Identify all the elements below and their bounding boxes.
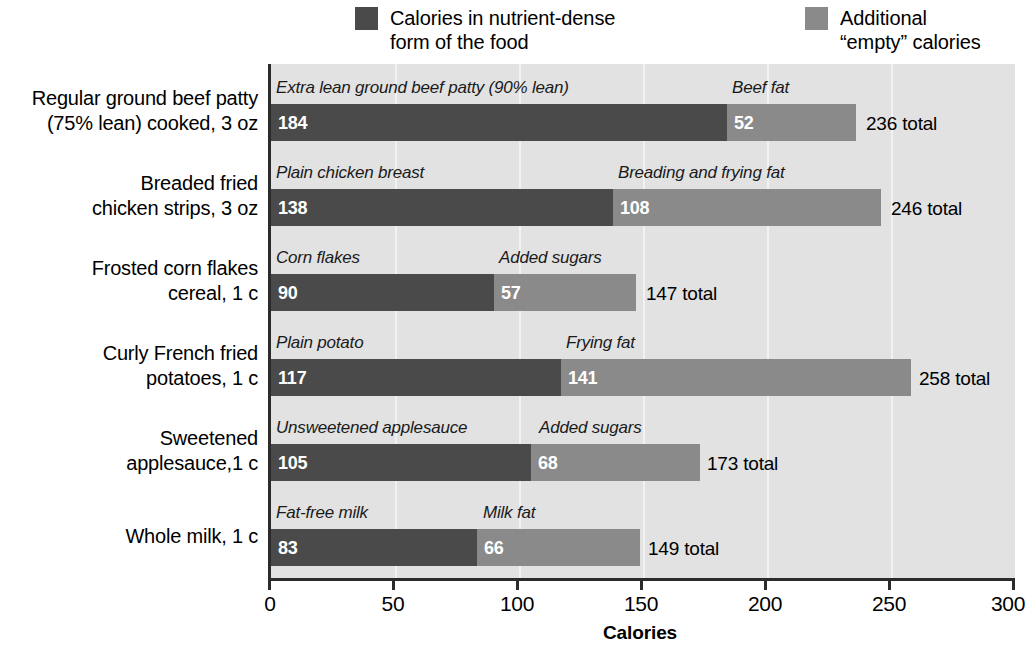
bar-value-empty-calories-4: 68: [538, 454, 558, 472]
x-axis-tick-0: [268, 578, 271, 590]
bar-value-nutrient-dense-3: 117: [278, 369, 306, 387]
legend-label-empty-calories: Additional “empty” calories: [840, 6, 981, 54]
bar-segment-nutrient-dense-2[interactable]: 90: [271, 274, 494, 311]
segment-caption-extra-4: Added sugars: [539, 418, 642, 438]
total-label-1: 246 total: [891, 199, 962, 218]
legend-label-nutrient-dense: Calories in nutrient-dense form of the f…: [390, 6, 615, 54]
segment-caption-base-0: Extra lean ground beef patty (90% lean): [276, 78, 569, 98]
bar-value-empty-calories-5: 66: [484, 539, 504, 557]
x-axis-tick-50: [392, 578, 395, 590]
bar-value-empty-calories-3: 141: [568, 369, 597, 387]
category-label-4: Sweetened applesauce,1 c: [0, 426, 258, 476]
bar-value-nutrient-dense-1: 138: [278, 199, 307, 217]
bar-row-2: Corn flakes Added sugars 90 57 147 total: [271, 234, 1015, 319]
x-axis-tick-label-200: 200: [748, 592, 782, 616]
x-axis-tick-200: [764, 578, 767, 590]
total-label-4: 173 total: [707, 454, 778, 473]
segment-caption-base-2: Corn flakes: [276, 248, 360, 268]
bar-segment-empty-calories-1[interactable]: 108: [613, 189, 881, 226]
bar-segment-empty-calories-5[interactable]: 66: [477, 529, 640, 566]
stacked-bar-3[interactable]: 117 141: [271, 359, 911, 396]
x-axis-tick-label-0: 0: [264, 592, 275, 616]
segment-caption-extra-5: Milk fat: [483, 503, 535, 523]
segment-caption-extra-2: Added sugars: [499, 248, 602, 268]
segment-caption-base-3: Plain potato: [276, 333, 363, 353]
legend-swatch-nutrient-dense: [355, 7, 378, 30]
x-axis-title: Calories: [268, 622, 1012, 644]
chart-legend: Calories in nutrient-dense form of the f…: [0, 0, 1034, 60]
bar-segment-empty-calories-0[interactable]: 52: [727, 104, 856, 141]
segment-caption-base-5: Fat-free milk: [276, 503, 368, 523]
bar-value-nutrient-dense-2: 90: [278, 284, 298, 302]
total-label-2: 147 total: [646, 284, 717, 303]
segment-caption-base-4: Unsweetened applesauce: [276, 418, 467, 438]
total-label-3: 258 total: [919, 369, 990, 388]
category-axis-labels: Regular ground beef patty (75% lean) coo…: [0, 64, 258, 578]
legend-entry-empty-calories: Additional “empty” calories: [805, 6, 981, 54]
x-axis-tick-150: [640, 578, 643, 590]
segment-caption-extra-3: Frying fat: [566, 333, 635, 353]
bar-segment-nutrient-dense-3[interactable]: 117: [271, 359, 561, 396]
category-label-3: Curly French fried potatoes, 1 c: [0, 341, 258, 391]
bar-row-4: Unsweetened applesauce Added sugars 105 …: [271, 404, 1015, 489]
stacked-bar-0[interactable]: 184 52: [271, 104, 856, 141]
x-axis-tick-label-300: 300: [991, 592, 1025, 616]
x-axis-tick-label-50: 50: [382, 592, 405, 616]
bar-segment-nutrient-dense-1[interactable]: 138: [271, 189, 613, 226]
segment-caption-extra-1: Breading and frying fat: [618, 163, 784, 183]
stacked-bar-5[interactable]: 83 66: [271, 529, 640, 566]
bar-value-nutrient-dense-4: 105: [278, 454, 307, 472]
stacked-bar-2[interactable]: 90 57: [271, 274, 636, 311]
bar-segment-nutrient-dense-5[interactable]: 83: [271, 529, 477, 566]
total-label-0: 236 total: [866, 114, 937, 133]
segment-caption-extra-0: Beef fat: [732, 78, 789, 98]
category-label-1: Breaded fried chicken strips, 3 oz: [0, 171, 258, 221]
stacked-bar-4[interactable]: 105 68: [271, 444, 700, 481]
bar-value-nutrient-dense-5: 83: [278, 539, 298, 557]
bar-segment-empty-calories-3[interactable]: 141: [561, 359, 911, 396]
stacked-bar-1[interactable]: 138 108: [271, 189, 881, 226]
bar-row-1: Plain chicken breast Breading and frying…: [271, 149, 1015, 234]
legend-entry-nutrient-dense: Calories in nutrient-dense form of the f…: [355, 6, 615, 54]
bar-segment-nutrient-dense-0[interactable]: 184: [271, 104, 727, 141]
x-axis-tick-250: [888, 578, 891, 590]
calories-stacked-bar-chart: Calories in nutrient-dense form of the f…: [0, 0, 1034, 651]
category-label-2: Frosted corn flakes cereal, 1 c: [0, 256, 258, 306]
bar-value-empty-calories-0: 52: [734, 114, 754, 132]
legend-swatch-empty-calories: [805, 7, 828, 30]
category-label-0: Regular ground beef patty (75% lean) coo…: [0, 86, 258, 136]
x-axis-tick-300: [1012, 578, 1015, 590]
bar-value-nutrient-dense-0: 184: [278, 114, 307, 132]
x-axis-tick-100: [516, 578, 519, 590]
x-axis-tick-label-250: 250: [872, 592, 906, 616]
bar-row-3: Plain potato Frying fat 117 141 258 tota…: [271, 319, 1015, 404]
segment-caption-base-1: Plain chicken breast: [276, 163, 424, 183]
x-axis-tick-label-150: 150: [624, 592, 658, 616]
bar-value-empty-calories-1: 108: [620, 199, 649, 217]
total-label-5: 149 total: [648, 539, 719, 558]
x-axis-tick-label-100: 100: [500, 592, 534, 616]
bar-segment-empty-calories-2[interactable]: 57: [494, 274, 636, 311]
category-label-5: Whole milk, 1 c: [0, 524, 258, 549]
bar-value-empty-calories-2: 57: [501, 284, 521, 302]
bar-segment-nutrient-dense-4[interactable]: 105: [271, 444, 531, 481]
plot-area: Extra lean ground beef patty (90% lean) …: [268, 64, 1015, 578]
bar-segment-empty-calories-4[interactable]: 68: [531, 444, 700, 481]
bar-row-5: Fat-free milk Milk fat 83 66 149 total: [271, 489, 1015, 574]
bar-row-0: Extra lean ground beef patty (90% lean) …: [271, 64, 1015, 149]
